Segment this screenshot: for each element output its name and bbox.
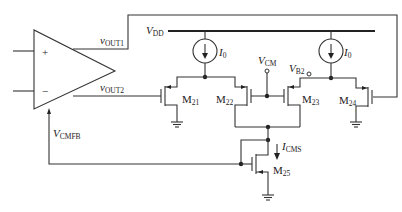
- vout2-label: vOUT2: [100, 81, 124, 95]
- vb2-terminal: [307, 72, 311, 76]
- i0-right-label: I0: [343, 46, 352, 60]
- i0-left-label: I0: [218, 46, 227, 60]
- vout1-label: vOUT1: [100, 34, 124, 48]
- node-vcm: [265, 94, 269, 98]
- m22-label: M22: [216, 93, 234, 107]
- vdd-label: VDD: [146, 24, 164, 38]
- pmos-arrow-icon: [166, 85, 171, 89]
- transistor-m24: M24: [331, 78, 372, 127]
- pmos-arrow-icon: [241, 85, 246, 89]
- vcm-label: VCM: [258, 54, 277, 68]
- vcmfb-arrow-icon: [47, 108, 51, 114]
- current-source-right: I0: [319, 31, 352, 78]
- transistor-m22: M22: [205, 77, 251, 127]
- transistor-m23: M23: [284, 78, 331, 127]
- m23-label: M23: [302, 93, 320, 107]
- icms-label: ICMS: [281, 140, 302, 154]
- cmfb-circuit-schematic: + − vOUT1 vOUT2 VCMFB VDD I0: [0, 0, 402, 212]
- vcm-terminal: [265, 69, 269, 73]
- current-source-left: I0: [193, 31, 227, 77]
- plus-sign: +: [42, 46, 48, 58]
- m24-label: M24: [339, 94, 357, 108]
- m25-label: M25: [273, 164, 291, 178]
- minus-sign: −: [42, 85, 48, 97]
- down-arrow-icon: [202, 53, 208, 59]
- vcmfb-label: VCMFB: [53, 127, 81, 141]
- transistor-m21: M21: [161, 77, 205, 127]
- m21-label: M21: [182, 93, 200, 107]
- current-arrow-icon: [274, 153, 280, 160]
- down-arrow-icon: [328, 53, 334, 59]
- nmos-arrow-icon: [258, 170, 263, 174]
- vb2-label: VB2: [289, 62, 305, 76]
- pmos-arrow-icon: [289, 85, 294, 89]
- pmos-arrow-icon: [362, 86, 367, 90]
